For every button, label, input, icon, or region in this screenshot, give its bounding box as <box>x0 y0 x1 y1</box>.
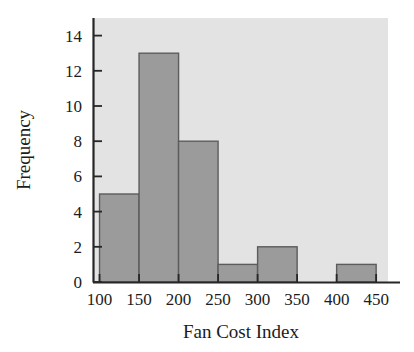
histogram-bar <box>337 264 377 282</box>
y-axis-tick-label: 8 <box>74 132 83 151</box>
y-axis-tick-label: 14 <box>65 27 83 46</box>
histogram-bar <box>218 264 258 282</box>
x-axis-tick-label: 100 <box>87 290 113 309</box>
x-axis-tick-label: 250 <box>205 290 231 309</box>
x-axis-tick-label: 300 <box>245 290 271 309</box>
fan-cost-index-histogram: 02468101214 100150200250300350400450 Fre… <box>0 0 414 352</box>
histogram-bar <box>179 141 219 282</box>
x-axis-tick-label: 400 <box>324 290 350 309</box>
y-axis-tick-label: 4 <box>74 203 83 222</box>
y-axis-tick-label: 2 <box>74 238 83 257</box>
histogram-figure: 02468101214 100150200250300350400450 Fre… <box>0 0 414 352</box>
x-axis-tick-label: 450 <box>363 290 389 309</box>
x-axis-tick-label: 350 <box>284 290 310 309</box>
y-axis-tick-label: 12 <box>65 62 82 81</box>
y-axis-tick-label: 10 <box>65 97 82 116</box>
histogram-bar <box>258 247 298 282</box>
histogram-bar <box>100 194 140 282</box>
y-axis-tick-label: 6 <box>74 167 83 186</box>
x-axis-tick-label: 150 <box>126 290 152 309</box>
histogram-bar <box>139 53 179 282</box>
y-axis-tick-label: 0 <box>74 273 83 292</box>
y-axis-title: Frequency <box>13 109 34 190</box>
x-axis-title: Fan Cost Index <box>183 321 300 342</box>
x-axis-tick-label: 200 <box>166 290 192 309</box>
